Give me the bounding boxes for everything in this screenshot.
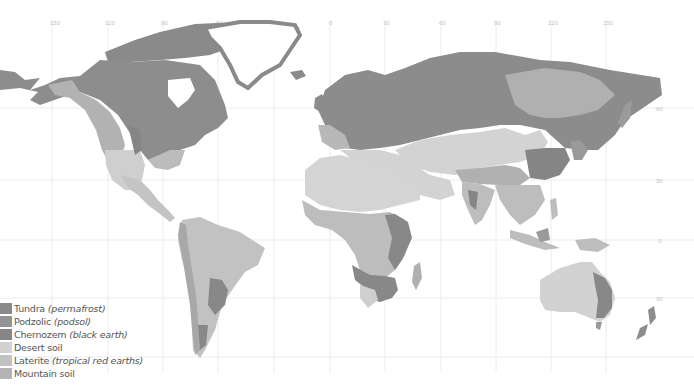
legend-label: Mountain soil <box>14 368 75 379</box>
legend-label: Desert soil <box>14 342 62 353</box>
chernozem-swatch <box>0 329 12 340</box>
soil-legend: Tundra (permafrost) Podzolic (podsol) Ch… <box>0 302 160 380</box>
legend-note: (tropical red earths) <box>52 355 143 366</box>
svg-text:90: 90 <box>494 20 501 26</box>
svg-text:150: 150 <box>50 20 61 26</box>
legend-item-laterite: Laterite (tropical red earths) <box>0 354 160 367</box>
legend-item-tundra: Tundra (permafrost) <box>0 302 160 315</box>
desert-swatch <box>0 342 12 353</box>
svg-text:90: 90 <box>161 20 168 26</box>
oceania <box>510 198 656 340</box>
legend-label: Laterite <box>14 355 49 366</box>
svg-text:60: 60 <box>439 20 446 26</box>
svg-text:30: 30 <box>383 20 390 26</box>
legend-note: (permafrost) <box>48 303 106 314</box>
mountain-swatch <box>0 368 12 379</box>
legend-label: Podzolic <box>14 316 51 327</box>
legend-note: (black earth) <box>69 329 127 340</box>
svg-text:30: 30 <box>656 178 663 184</box>
tundra-swatch <box>0 303 12 314</box>
legend-item-podzolic: Podzolic (podsol) <box>0 315 160 328</box>
legend-item-desert: Desert soil <box>0 341 160 354</box>
south-america <box>178 217 265 358</box>
svg-text:120: 120 <box>105 20 116 26</box>
svg-text:0: 0 <box>658 238 662 244</box>
svg-text:150: 150 <box>603 20 614 26</box>
longitude-ticks: 150 120 90 60 30 0 30 60 90 120 150 <box>50 20 614 26</box>
legend-item-mountain: Mountain soil <box>0 367 160 380</box>
svg-text:30: 30 <box>656 296 663 302</box>
legend-item-chernozem: Chernozem (black earth) <box>0 328 160 341</box>
latitude-ticks: 60 30 0 30 <box>656 106 663 302</box>
legend-note: (podsol) <box>54 316 91 327</box>
svg-text:0: 0 <box>329 20 333 26</box>
legend-label: Tundra <box>14 303 45 314</box>
legend-label: Chernozem <box>14 329 66 340</box>
svg-text:60: 60 <box>656 106 663 112</box>
laterite-swatch <box>0 355 12 366</box>
svg-text:120: 120 <box>548 20 559 26</box>
podzolic-swatch <box>0 316 12 327</box>
north-america <box>0 22 306 222</box>
